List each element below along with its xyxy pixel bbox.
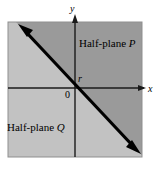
figure-canvas [0, 0, 158, 172]
half-plane-p-letter: P [129, 37, 136, 49]
half-plane-p-text: Half-plane [79, 37, 126, 49]
half-plane-p-label: Half-plane P [79, 38, 136, 49]
half-plane-q-label: Half-plane Q [7, 122, 65, 133]
y-axis-label: y [70, 4, 74, 14]
x-axis-label: x [148, 84, 152, 94]
point-r-label: r [78, 74, 82, 84]
half-plane-figure: Half-plane P Half-plane Q 0 r x y [0, 0, 158, 172]
half-plane-q-letter: Q [57, 121, 65, 133]
y-axis-arrowhead-icon [72, 14, 78, 23]
origin-label: 0 [65, 90, 70, 100]
half-plane-q-text: Half-plane [7, 121, 54, 133]
